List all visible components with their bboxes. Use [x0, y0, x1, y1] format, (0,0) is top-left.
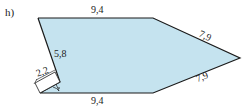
left-slant-length-label: 5,8 — [54, 48, 67, 59]
top-length-label: 9,4 — [91, 4, 104, 15]
right-angle-dot — [58, 87, 60, 89]
hexagon-figure: h) 9,4 7,9 7,9 9,4 5,8 2,2 — [0, 0, 252, 108]
part-label: h) — [5, 6, 15, 19]
hexagon-shape — [38, 18, 240, 93]
bottom-length-label: 9,4 — [91, 95, 104, 106]
